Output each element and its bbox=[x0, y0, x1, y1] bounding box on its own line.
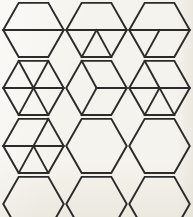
hexagon-divider-center-to-bottom-left bbox=[82, 30, 97, 57]
hexagon-cell-3[interactable] bbox=[128, 1, 191, 59]
hexagon-divider-center-to-bottom-left bbox=[19, 146, 34, 173]
hexagon-divider-center-to-bottom-left bbox=[19, 88, 34, 115]
hexagon-midline-with-left-diagonal-figure bbox=[128, 1, 191, 59]
hexagon-outline bbox=[66, 119, 126, 173]
hexagon-divider-center-to-bottom-left bbox=[145, 30, 160, 57]
hexagon-divider-center-to-top-right bbox=[34, 119, 49, 146]
hexagon-cell-5[interactable] bbox=[65, 59, 128, 117]
hexagon-midline-with-three-diagonals-left-top-figure bbox=[128, 59, 191, 117]
hexagon-cell-12[interactable] bbox=[128, 175, 191, 217]
hexagon-divider-center-to-top-left bbox=[19, 61, 34, 88]
hexagon-divider-center-to-bottom-left bbox=[145, 88, 160, 115]
hexagon-cell-11[interactable] bbox=[65, 175, 128, 217]
hexagon-blank-figure bbox=[65, 117, 128, 175]
worksheet-page bbox=[0, 0, 193, 217]
hexagon-grid bbox=[0, 0, 193, 217]
hexagon-midline-with-three-diagonals-right-top-figure bbox=[2, 117, 65, 175]
hexagon-divider-center-to-bottom-right bbox=[34, 146, 49, 173]
hexagon-cell-7[interactable] bbox=[2, 117, 65, 175]
hexagon-sixths-figure bbox=[2, 59, 65, 117]
hexagon-midline-with-bottom-v-figure bbox=[65, 1, 128, 59]
hexagon-cell-10[interactable] bbox=[2, 175, 65, 217]
hexagon-divider-center-to-top-left bbox=[145, 61, 160, 88]
hexagon-cell-8[interactable] bbox=[65, 117, 128, 175]
hexagon-cell-6[interactable] bbox=[128, 59, 191, 117]
hexagon-outline bbox=[129, 119, 189, 173]
hexagon-outline bbox=[3, 177, 63, 217]
hexagon-cell-4[interactable] bbox=[2, 59, 65, 117]
hexagon-halves-figure bbox=[2, 1, 65, 59]
hexagon-outline bbox=[66, 177, 126, 217]
hexagon-divider-center-to-bottom-right bbox=[34, 88, 49, 115]
hexagon-outline bbox=[129, 177, 189, 217]
hexagon-divider-center-to-bottom-right bbox=[97, 30, 112, 57]
hexagon-cube-figure bbox=[65, 59, 128, 117]
hexagon-divider-center-to-bottom-right bbox=[160, 88, 175, 115]
hexagon-blank-figure bbox=[2, 175, 65, 217]
hexagon-cell-2[interactable] bbox=[65, 1, 128, 59]
hexagon-blank-figure bbox=[65, 175, 128, 217]
hexagon-blank-figure bbox=[128, 175, 191, 217]
hexagon-cell-9[interactable] bbox=[128, 117, 191, 175]
hexagon-cell-1[interactable] bbox=[2, 1, 65, 59]
hexagon-blank-figure bbox=[128, 117, 191, 175]
hexagon-divider-center-to-top-left bbox=[82, 61, 97, 88]
hexagon-divider-center-to-top-right bbox=[34, 61, 49, 88]
hexagon-divider-center-to-bottom-left bbox=[82, 88, 97, 115]
